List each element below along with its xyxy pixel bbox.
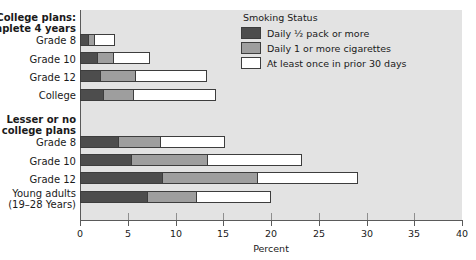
legend-swatch-icon xyxy=(241,57,261,69)
x-tick-15 xyxy=(223,221,224,226)
legend-item-label: Daily ½ pack or more xyxy=(267,28,369,39)
bar-segment xyxy=(135,70,207,82)
x-tick-label-40: 40 xyxy=(456,228,468,239)
x-tick-25 xyxy=(319,221,320,226)
x-tick-label-30: 30 xyxy=(361,228,373,239)
bar-segment xyxy=(80,52,97,64)
legend-item-at-least-once: At least once in prior 30 days xyxy=(241,57,463,69)
cat-label-g1-grade-10: Grade 10 xyxy=(0,54,76,65)
legend: Smoking Status Daily ½ pack or more Dail… xyxy=(241,12,463,72)
legend-title: Smoking Status xyxy=(243,12,463,23)
bar-segment xyxy=(80,89,103,101)
cat-label-g2-young-adults: Young adults (19–28 Years) xyxy=(0,188,76,210)
x-tick-40 xyxy=(462,221,463,226)
legend-item-daily-half-pack: Daily ½ pack or more xyxy=(241,27,463,39)
bar-row xyxy=(80,172,358,184)
x-tick-35 xyxy=(414,221,415,226)
cat-label-g1-college: College xyxy=(0,90,76,101)
group-heading-lesser-no-college-plans: Lesser or no college plans xyxy=(0,114,76,136)
x-tick-label-35: 35 xyxy=(408,228,420,239)
bar-row xyxy=(80,191,271,203)
x-axis-title: Percent xyxy=(253,243,289,254)
x-tick-inner-30 xyxy=(367,213,368,220)
bar-segment xyxy=(207,154,302,166)
group-heading-college-plans: College plans: Complete 4 years xyxy=(0,12,76,34)
bar-row xyxy=(80,154,302,166)
x-tick-label-0: 0 xyxy=(77,228,83,239)
x-tick-5 xyxy=(128,221,129,226)
bar-segment xyxy=(103,89,133,101)
bar-segment xyxy=(131,154,207,166)
smoking-status-chart: 0 5 10 15 20 25 30 35 40 Percent College… xyxy=(0,0,476,260)
legend-item-daily-one-or-more: Daily 1 or more cigarettes xyxy=(241,42,463,54)
x-tick-inner-10 xyxy=(176,213,177,220)
bar-segment xyxy=(100,70,135,82)
cat-label-g2-grade-8: Grade 8 xyxy=(0,137,76,148)
x-tick-0 xyxy=(80,221,81,226)
x-tick-label-20: 20 xyxy=(265,228,277,239)
x-tick-20 xyxy=(271,221,272,226)
bar-segment xyxy=(196,191,271,203)
legend-item-label: Daily 1 or more cigarettes xyxy=(267,43,391,54)
bar-row xyxy=(80,34,115,46)
bar-row xyxy=(80,136,225,148)
bar-row xyxy=(80,70,207,82)
bar-segment xyxy=(133,89,216,101)
x-tick-inner-35 xyxy=(414,213,415,220)
bar-segment xyxy=(257,172,358,184)
cat-label-g1-grade-8: Grade 8 xyxy=(0,35,76,46)
x-tick-label-15: 15 xyxy=(217,228,229,239)
cat-label-g1-grade-12: Grade 12 xyxy=(0,72,76,83)
x-tick-30 xyxy=(367,221,368,226)
cat-label-g2-grade-10: Grade 10 xyxy=(0,156,76,167)
bar-segment xyxy=(80,191,147,203)
x-tick-inner-5 xyxy=(128,213,129,220)
legend-item-label: At least once in prior 30 days xyxy=(267,58,407,69)
x-tick-label-25: 25 xyxy=(313,228,325,239)
x-tick-inner-15 xyxy=(223,213,224,220)
bar-segment xyxy=(80,34,88,46)
bar-segment xyxy=(80,154,131,166)
bar-segment xyxy=(94,34,115,46)
legend-swatch-icon xyxy=(241,27,261,39)
bar-segment xyxy=(80,136,118,148)
x-tick-label-5: 5 xyxy=(125,228,131,239)
bar-segment xyxy=(162,172,257,184)
bar-segment xyxy=(118,136,160,148)
bar-segment xyxy=(80,70,100,82)
bar-row xyxy=(80,89,216,101)
legend-swatch-icon xyxy=(241,42,261,54)
x-tick-label-10: 10 xyxy=(170,228,182,239)
bar-segment xyxy=(80,172,162,184)
bar-segment xyxy=(88,34,95,46)
bar-segment xyxy=(160,136,225,148)
bar-segment xyxy=(113,52,149,64)
bar-row xyxy=(80,52,150,64)
bar-segment xyxy=(147,191,196,203)
x-tick-10 xyxy=(176,221,177,226)
bar-segment xyxy=(97,52,113,64)
x-tick-inner-25 xyxy=(319,213,320,220)
x-tick-inner-20 xyxy=(271,213,272,220)
cat-label-g2-grade-12: Grade 12 xyxy=(0,174,76,185)
